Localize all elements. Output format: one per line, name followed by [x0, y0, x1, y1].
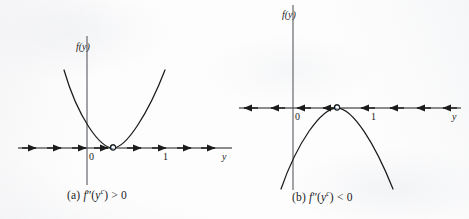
panel-a-critical-point-label: c: [110, 141, 114, 151]
panel-b-x-axis-label: y: [452, 112, 456, 122]
panel-a: f(y) 0 c 1 y (a) f′′(yc) > 0: [0, 0, 235, 219]
panel-a-y-axis-label: f(y): [76, 42, 90, 52]
panel-a-tick-zero: 0: [89, 152, 94, 162]
panel-a-caption-prefix: (a): [67, 189, 80, 201]
panel-b-y-axis-label: f(y): [282, 10, 296, 20]
panel-a-tick-one: 1: [163, 152, 168, 162]
panel-a-caption-paren-close: ): [104, 189, 108, 201]
panel-a-caption-relation: > 0: [111, 189, 127, 201]
figure-container: f(y) 0 c 1 y (a) f′′(yc) > 0: [0, 0, 469, 219]
panel-b-caption: (b) f′′(yc) < 0: [292, 190, 353, 203]
panel-b: f(y) 0 c 1 y (b) f′′(yc) < 0: [235, 0, 469, 219]
panel-b-plot: [235, 0, 469, 219]
panel-a-plot: [0, 0, 235, 219]
curve-a: [64, 70, 165, 148]
panel-b-critical-point-label: c: [334, 101, 338, 111]
panel-b-tick-one: 1: [371, 112, 376, 122]
panel-b-caption-paren-close: ): [330, 191, 334, 203]
panel-b-tick-zero: 0: [295, 112, 300, 122]
panel-a-x-axis-label: y: [222, 152, 226, 162]
panel-a-caption: (a) f′′(yc) > 0: [67, 188, 127, 201]
panel-b-caption-prefix: (b): [292, 191, 306, 203]
panel-b-caption-relation: < 0: [337, 191, 353, 203]
